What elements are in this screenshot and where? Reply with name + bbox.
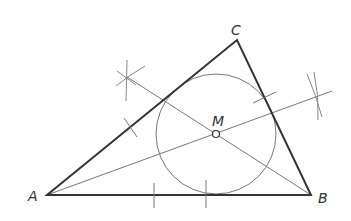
tick-cb [253,92,276,103]
point-m-marker [213,131,220,138]
label-c: C [231,22,241,38]
construction-arcs-upper-left [116,60,145,101]
tick-ac [124,118,137,137]
diagram-canvas: A B C M [0,0,351,221]
label-b: B [318,190,328,206]
bisector-line-2 [47,91,332,195]
label-a: A [27,188,38,204]
tick-marks [124,92,276,208]
triangle-abc [47,40,311,195]
label-m: M [212,113,224,129]
